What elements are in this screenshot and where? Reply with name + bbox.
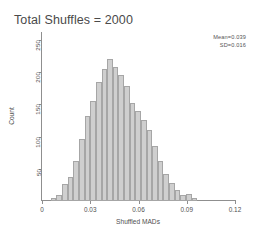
y-tick-label: 150: [35, 104, 42, 115]
x-tick-mark: [187, 201, 188, 204]
y-tick-label: 200: [35, 72, 42, 83]
histogram-bar: [192, 198, 198, 201]
y-tick-label: 250: [35, 40, 42, 51]
histogram-figure: Total Shuffles = 2000 Mean=0.039 SD=0.01…: [0, 0, 262, 240]
x-tick-label: 0.06: [132, 206, 144, 213]
y-tick-label: 50: [35, 169, 42, 176]
y-axis-label: Count: [8, 107, 15, 125]
x-tick-mark: [90, 201, 91, 204]
plot-area: 50100150200250 00.030.060.090.12: [42, 32, 235, 201]
x-tick-label: 0.03: [84, 206, 96, 213]
x-tick-mark: [235, 201, 236, 204]
x-tick-label: 0: [40, 206, 44, 213]
chart-title: Total Shuffles = 2000: [14, 13, 133, 27]
x-tick-mark: [139, 201, 140, 204]
y-tick-label: 100: [35, 137, 42, 148]
x-tick-mark: [42, 201, 43, 204]
x-tick-label: 0.09: [181, 206, 193, 213]
x-axis-label: Shuffled MADs: [116, 218, 160, 225]
x-tick-label: 0.12: [229, 206, 241, 213]
